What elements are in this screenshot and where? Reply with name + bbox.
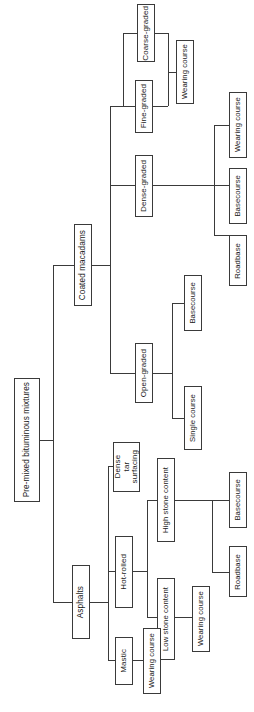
edge-high-stone-stem [175,500,212,501]
node-dense-graded-basecourse: Basecourse [229,168,247,224]
node-root-label: Pre-mixed bituminous mixtures [23,382,32,497]
edge-to-low-stone [147,617,157,618]
node-dense-graded-roadbase: Roadbase [229,235,247,286]
edge-dense-to-roadbase [214,235,229,236]
node-hot-rolled-label: Hot-rolled [120,554,129,590]
node-dense-tar-surfacing: Dense tar surfacing [113,442,140,492]
edge-mastic-stem [133,660,143,661]
node-fine-coarse-wearing-course-label: Wearing course [181,44,189,99]
node-dense-graded: Dense-graded [135,155,153,217]
edge-open-to-basecourse [172,303,184,304]
edge-merge-to-wearing [168,72,176,73]
edge-asphalts-bus [108,466,109,660]
node-mastic-wearing-course: Wearing course [143,628,161,694]
edge-to-fine-graded [123,106,135,107]
edge-dense-stem [153,185,229,186]
node-open-graded-label: Open-graded [140,349,149,397]
edge-hot-rolled-bus [147,500,148,617]
node-low-stone-wearing-course: Wearing course [192,586,210,652]
edge-hot-rolled-stem [133,571,147,572]
node-coarse-graded-label: Coarse-graded [142,6,151,61]
node-dense-graded-wearing-course-label: Wearing course [234,97,242,152]
edge-open-stem [153,373,172,374]
edge-finecoarse-merge-bus [168,33,169,106]
edge-asphalts-to-mastic [108,660,115,661]
node-fine-graded-label: Fine-graded [140,84,149,128]
node-fine-coarse-wearing-course: Wearing course [176,40,194,104]
node-hot-rolled: Hot-rolled [115,536,133,608]
edge-open-bus [172,303,173,418]
node-mastic-label: Mastic [120,649,129,673]
edge-high-to-basecourse [212,500,229,501]
edge-root-to-asphalts [53,602,72,603]
edge-dense-to-wearing [214,125,229,126]
edge-coated-bus [110,106,111,373]
edge-finecoarse-bus [123,33,124,106]
node-open-graded-basecourse: Basecourse [184,275,202,331]
node-low-stone-content-label: Low stone content [162,587,170,651]
node-high-stone-basecourse-label: Basecourse [234,479,242,521]
edge-coated-to-dense-graded [110,185,137,186]
edge-coated-stem [92,265,110,266]
node-dense-graded-roadbase-label: Roadbase [234,243,242,279]
edge-asphalts-to-hot-rolled [108,571,115,572]
node-high-stone-content: High stone content [157,458,175,542]
node-coarse-graded: Coarse-graded [137,4,155,62]
node-high-stone-basecourse: Basecourse [229,472,247,528]
edge-root-to-coated [53,265,74,266]
edge-high-stone-bus [212,500,213,572]
node-open-graded-basecourse-label: Basecourse [189,282,197,324]
edge-dense-bus [214,125,215,235]
node-dense-graded-basecourse-label: Basecourse [234,175,242,217]
edge-coated-to-finecoarse [110,106,123,107]
node-high-stone-roadbase: Roadbase [229,546,247,597]
tree-diagram: Pre-mixed bituminous mixtures Coated mac… [0,0,254,712]
edge-root-bus [53,265,54,602]
node-asphalts-label: Asphalts [77,586,86,618]
edge-open-to-single-course [172,418,184,419]
node-dense-graded-label: Dense-graded [140,160,149,212]
node-dense-tar-surfacing-label: Dense tar surfacing [114,450,140,483]
node-mastic-wearing-course-label: Wearing course [148,633,156,688]
edge-low-stone-stem [175,617,192,618]
node-fine-graded: Fine-graded [135,80,153,133]
node-open-graded-single-course: Single course [184,386,202,450]
node-open-graded: Open-graded [135,343,153,403]
edge-asphalts-stem [90,602,108,603]
node-root: Pre-mixed bituminous mixtures [14,378,40,502]
node-high-stone-roadbase-label: Roadbase [234,554,242,590]
node-coated-macadams: Coated macadams [74,224,92,306]
edge-to-coarse-graded [123,33,137,34]
edge-root-stem [40,440,53,441]
node-coated-macadams-label: Coated macadams [79,230,88,300]
node-high-stone-content-label: High stone content [162,467,170,533]
node-mastic: Mastic [115,637,133,685]
node-low-stone-wearing-course-label: Wearing course [197,591,205,646]
node-dense-graded-wearing-course: Wearing course [229,92,247,158]
node-open-graded-single-course-label: Single course [189,394,197,442]
edge-coated-to-open-graded [110,373,135,374]
edge-high-to-roadbase [212,572,229,573]
edge-coarse-out [155,33,168,34]
edge-fine-out [153,106,168,107]
edge-to-high-stone [147,500,157,501]
node-asphalts: Asphalts [72,565,90,639]
